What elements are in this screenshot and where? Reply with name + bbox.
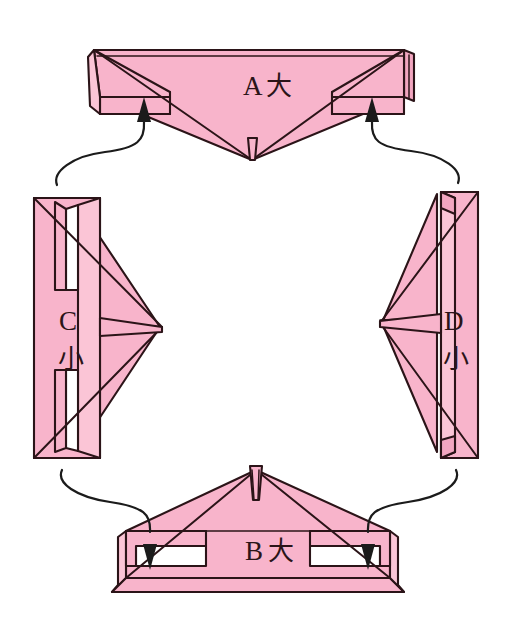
piece-c-bottom-inner-strip [55, 370, 66, 452]
piece-c-top-pocket-gap [66, 205, 78, 290]
piece-c-letter: C [59, 306, 78, 336]
piece-b-bottom-band [112, 578, 404, 592]
piece-a-size-char: 大 [266, 71, 292, 101]
piece-c-group: C 小 [34, 198, 162, 458]
piece-a-bottom-vertex-tab [248, 138, 257, 160]
piece-d-size-char: 小 [443, 344, 469, 374]
piece-c-bottom-pocket-gap [66, 370, 78, 451]
piece-c-size-char: 小 [58, 344, 84, 374]
piece-c-right-strip [78, 198, 100, 458]
arrow-c-to-b-curve [61, 470, 150, 532]
origami-assembly-figure: A 大 [0, 0, 513, 629]
piece-c-top-inner-strip [55, 202, 66, 290]
piece-b-group: B 大 [112, 466, 404, 592]
piece-d-letter: D [444, 306, 465, 336]
origami-diagram-canvas: A 大 [0, 0, 513, 629]
piece-a-letter: A [243, 71, 264, 101]
arrow-d-to-b-curve [368, 470, 457, 532]
arrow-d-to-a-curve [372, 122, 459, 183]
piece-d-group: D 小 [380, 192, 478, 458]
piece-b-letter: B [245, 536, 264, 566]
arrow-c-to-a-curve [56, 122, 144, 185]
piece-b-size-char: 大 [268, 536, 294, 566]
